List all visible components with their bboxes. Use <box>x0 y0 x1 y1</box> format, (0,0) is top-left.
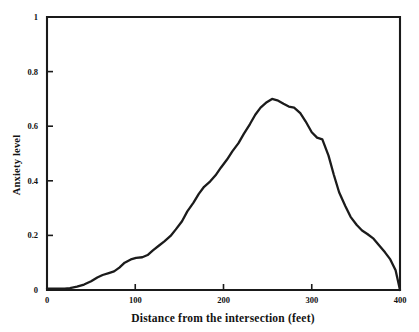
x-tick-label: 400 <box>394 295 407 305</box>
x-axis-title: Distance from the intersection (feet) <box>131 312 314 325</box>
x-tick-label: 100 <box>129 295 142 305</box>
anxiety-distance-line-chart: 00.20.40.60.81 0100200300400 Distance fr… <box>0 0 419 332</box>
x-tick-label: 300 <box>305 295 318 305</box>
chart-page: 00.20.40.60.81 0100200300400 Distance fr… <box>0 0 419 332</box>
y-tick-label: 0.4 <box>27 176 38 186</box>
y-tick-label: 1 <box>34 12 38 22</box>
y-tick-label: 0.8 <box>27 67 38 77</box>
y-tick-label: 0.6 <box>27 121 38 131</box>
x-tick-label: 200 <box>217 295 230 305</box>
chart-canvas: 00.20.40.60.81 0100200300400 Distance fr… <box>0 0 419 332</box>
y-tick-label: 0.2 <box>27 230 38 240</box>
chart-background <box>0 0 419 332</box>
y-axis-title: Anxiety level <box>11 135 22 196</box>
y-tick-label: 0 <box>34 285 38 295</box>
x-tick-label: 0 <box>45 295 49 305</box>
